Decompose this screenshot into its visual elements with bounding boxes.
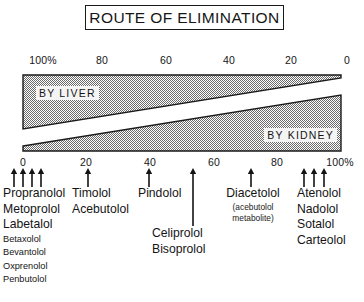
drug-name: Betaxolol (3, 233, 65, 247)
drug-name: Labetalol (3, 217, 65, 233)
marker-arrow-propranolol-1 (11, 168, 18, 187)
top-axis-tick-20: 20 (285, 54, 297, 66)
top-axis-liver-scale: 100% 80 60 40 20 0 (0, 54, 364, 68)
figure-title-box: ROUTE OF ELIMINATION (85, 5, 284, 30)
drug-name: Bevantolol (3, 246, 65, 260)
marker-arrow-atenolol-1 (301, 168, 308, 187)
drug-note-line: (acebutolol (210, 202, 296, 213)
drug-name: Carteolol (297, 233, 346, 249)
drug-group-propranolol: Propranolol Metoprolol Labetalol Betaxol… (3, 186, 65, 287)
drug-group-timolol: Timolol Acebutolol (72, 186, 129, 217)
top-axis-tick-60: 60 (160, 54, 172, 66)
drug-name: Bisoprolol (152, 242, 206, 258)
drug-name: Metoprolol (3, 202, 65, 218)
marker-arrow-propranolol-3 (29, 168, 36, 187)
drug-name: Diacetolol (210, 186, 296, 202)
marker-arrow-atenolol-3 (321, 168, 328, 187)
drug-name: Penbutolol (3, 273, 65, 287)
drug-name: Atenolol (297, 186, 346, 202)
drug-name: Acebutolol (72, 202, 129, 218)
drug-name: Sotalol (297, 217, 346, 233)
elimination-band-chart: BY LIVER BY KIDNEY (22, 74, 343, 153)
drug-note-line: metabolite) (210, 213, 296, 224)
marker-arrow-propranolol-2 (20, 168, 27, 187)
drug-name: Celiprolol (152, 226, 206, 242)
top-axis-tick-0: 0 (344, 54, 350, 66)
drug-name: Timolol (72, 186, 129, 202)
drug-group-celiprolol: Celiprolol Bisoprolol (152, 226, 206, 257)
drug-group-atenolol: Atenolol Nadolol Sotalol Carteolol (297, 186, 346, 248)
drug-name-groups: Propranolol Metoprolol Labetalol Betaxol… (0, 186, 364, 302)
drug-group-pindolol: Pindolol (138, 186, 181, 202)
top-axis-tick-40: 40 (223, 54, 235, 66)
marker-arrow-timolol (85, 168, 92, 187)
page-title: ROUTE OF ELIMINATION (89, 9, 279, 27)
top-axis-tick-100: 100% (29, 54, 57, 66)
marker-arrow-atenolol-2 (311, 168, 318, 187)
band-label-by-liver: BY LIVER (36, 86, 99, 100)
drug-name: Nadolol (297, 202, 346, 218)
drug-name: Propranolol (3, 186, 65, 202)
drug-group-diacetolol: Diacetolol (acebutolol metabolite) (210, 186, 296, 224)
marker-arrow-pindolol (146, 168, 153, 187)
drug-name: Oxprenolol (3, 260, 65, 274)
route-of-elimination-figure: ROUTE OF ELIMINATION 100% 80 60 40 20 0 … (0, 0, 364, 302)
drug-name: Pindolol (138, 186, 181, 202)
top-axis-tick-80: 80 (96, 54, 108, 66)
marker-arrow-diacetolol (248, 168, 255, 187)
marker-arrow-propranolol-4 (38, 168, 45, 187)
band-label-by-kidney: BY KIDNEY (264, 128, 337, 142)
